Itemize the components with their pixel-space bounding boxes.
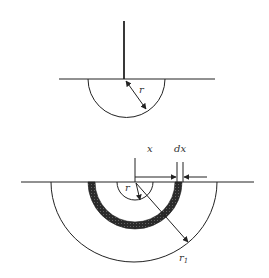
hemisphere-top <box>88 79 165 117</box>
dx-label: dx <box>174 143 186 154</box>
diagram-canvas: r x dx r r1 <box>0 0 269 278</box>
outer-radius-subscript: 1 <box>184 257 188 265</box>
bottom-figure: x dx r r1 <box>21 143 254 265</box>
x-label: x <box>147 143 153 154</box>
radius-label-top: r <box>139 84 145 95</box>
inner-radius-label: r <box>125 182 131 193</box>
outer-radius-label: r1 <box>179 252 188 265</box>
shaded-shell <box>88 182 182 229</box>
top-figure: r <box>59 21 215 117</box>
inner-hemisphere-r <box>117 182 153 200</box>
